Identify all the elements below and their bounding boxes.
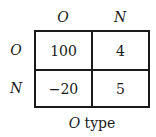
cell-o-n: 4 — [93, 44, 148, 58]
row-header-n: N — [6, 81, 26, 95]
cell-n-n: 5 — [93, 82, 148, 96]
row-divider — [36, 69, 148, 71]
row-header-o: O — [6, 43, 26, 57]
matrix-caption: O type — [34, 116, 150, 130]
caption-type-word: type — [80, 115, 115, 131]
payoff-matrix: 100 4 −20 5 — [34, 30, 150, 108]
cell-n-o: −20 — [36, 82, 91, 96]
cell-o-o: 100 — [36, 44, 91, 58]
caption-type-letter: O — [69, 115, 80, 131]
column-header-o: O — [53, 10, 73, 24]
column-header-n: N — [110, 10, 130, 24]
